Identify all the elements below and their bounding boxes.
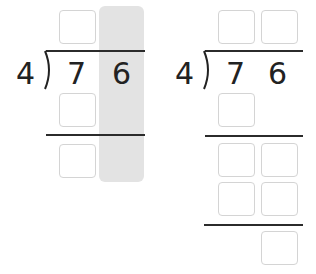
- right-division-bar: [205, 50, 303, 52]
- right-product2-tens-box[interactable]: [218, 182, 255, 216]
- left-product-box[interactable]: [59, 93, 96, 127]
- right-subtraction-line-1: [205, 135, 303, 137]
- right-dividend-tens: 7: [226, 59, 245, 89]
- right-divisor: 4: [175, 59, 194, 89]
- right-product2-ones-box[interactable]: [261, 182, 298, 216]
- right-quotient-ones-box[interactable]: [261, 10, 298, 44]
- right-bringdown-tens-box[interactable]: [218, 143, 255, 177]
- left-division-bar: [46, 50, 145, 52]
- ones-column-highlight: [99, 6, 144, 182]
- right-remainder-box[interactable]: [261, 231, 298, 265]
- left-divisor: 4: [16, 59, 35, 89]
- left-division-bracket-icon: [40, 50, 54, 90]
- left-dividend-tens: 7: [67, 59, 86, 89]
- left-subtraction-line: [46, 134, 145, 136]
- right-division-bracket-icon: [199, 50, 213, 90]
- right-dividend-ones: 6: [268, 59, 287, 89]
- left-dividend-ones: 6: [112, 59, 131, 89]
- left-difference-box[interactable]: [59, 144, 96, 178]
- right-bringdown-ones-box[interactable]: [261, 143, 298, 177]
- right-product-box[interactable]: [218, 93, 255, 127]
- right-quotient-tens-box[interactable]: [218, 10, 255, 44]
- right-subtraction-line-2: [204, 224, 303, 226]
- left-quotient-box[interactable]: [59, 10, 96, 44]
